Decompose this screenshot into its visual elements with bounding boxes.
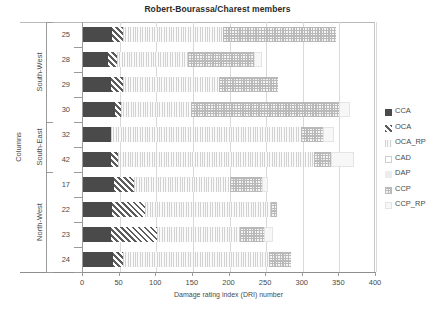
bar-segment-cca[interactable]	[83, 102, 115, 117]
bar-row	[83, 197, 376, 222]
legend-label: CCP_RP	[395, 199, 425, 208]
legend-swatch-cad	[385, 156, 392, 163]
bar-segment-cca[interactable]	[83, 127, 111, 142]
x-axis-title: Damage rating index (DRI) number	[82, 291, 375, 298]
legend-swatch-dap	[385, 171, 392, 178]
legend-swatch-ccp	[385, 187, 392, 194]
bar-segment-cca[interactable]	[83, 177, 114, 192]
legend-swatch-ccp_rp	[385, 202, 392, 209]
category-tick	[74, 147, 82, 148]
bar-segment-ccp_rp[interactable]	[254, 52, 262, 67]
bar-segment-oca[interactable]	[112, 27, 122, 42]
bar-segment-ccp[interactable]	[230, 177, 262, 192]
bar-segment-ccp[interactable]	[188, 52, 254, 67]
group-label: South-East	[35, 128, 44, 165]
legend-swatch-oca	[385, 125, 392, 132]
x-tick-label: 0	[69, 278, 95, 287]
category-label: 25	[48, 30, 70, 39]
bar-row	[83, 222, 376, 247]
bar-segment-oca[interactable]	[113, 252, 123, 267]
bar-segment-oca_rp[interactable]	[157, 227, 240, 242]
category-label: 22	[48, 205, 70, 214]
bar-segment-ccp[interactable]	[269, 252, 291, 267]
category-tick	[74, 122, 82, 123]
gridline	[376, 22, 377, 272]
bar-segment-ccp[interactable]	[191, 102, 339, 117]
bar-segment-oca_rp[interactable]	[121, 102, 191, 117]
legend-label: CAD	[395, 153, 411, 162]
stacked-bar[interactable]	[83, 102, 376, 117]
legend-item[interactable]: CCP	[385, 184, 435, 200]
stacked-bar[interactable]	[83, 227, 376, 242]
bar-row	[83, 147, 376, 172]
chart-root: Robert-Bourassa/Charest members 25282930…	[0, 0, 435, 310]
bar-segment-oca_rp[interactable]	[117, 52, 189, 67]
stacked-bar[interactable]	[83, 177, 376, 192]
bar-row	[83, 122, 376, 147]
bar-segment-oca_rp[interactable]	[111, 127, 301, 142]
stacked-bar[interactable]	[83, 52, 376, 67]
bar-segment-oca_rp[interactable]	[118, 152, 314, 167]
bar-segment-ccp[interactable]	[301, 127, 323, 142]
bar-segment-cca[interactable]	[83, 27, 112, 42]
group-bracket	[46, 22, 47, 122]
bar-segment-oca_rp[interactable]	[134, 177, 229, 192]
stacked-bar[interactable]	[83, 27, 376, 42]
x-tick-label: 300	[289, 278, 315, 287]
x-tick-label: 50	[106, 278, 132, 287]
bar-segment-ccp_rp[interactable]	[262, 177, 269, 192]
bar-segment-oca[interactable]	[112, 202, 144, 217]
bar-segment-ccp[interactable]	[271, 202, 277, 217]
bar-segment-oca[interactable]	[114, 177, 135, 192]
bar-segment-cca[interactable]	[83, 252, 113, 267]
bar-segment-cca[interactable]	[83, 52, 108, 67]
legend-item[interactable]: OCA	[385, 122, 435, 138]
bar-segment-ccp_rp[interactable]	[264, 227, 273, 242]
bar-segment-oca_rp[interactable]	[123, 252, 269, 267]
stacked-bar[interactable]	[83, 202, 376, 217]
legend-item[interactable]: OCA_RP	[385, 137, 435, 153]
bar-segment-oca_rp[interactable]	[123, 77, 219, 92]
bar-segment-cca[interactable]	[83, 227, 111, 242]
legend-swatch-cca	[385, 109, 392, 116]
bar-segment-oca[interactable]	[108, 52, 117, 67]
category-tick	[74, 172, 82, 173]
group-bracket-cap	[46, 22, 53, 23]
bar-segment-ccp[interactable]	[240, 227, 264, 242]
group-bracket-cap	[46, 172, 53, 173]
bar-segment-oca[interactable]	[111, 227, 157, 242]
bar-segment-ccp_rp[interactable]	[339, 102, 349, 117]
x-tick-mark	[192, 272, 193, 276]
stacked-bar[interactable]	[83, 252, 376, 267]
legend-item[interactable]: CCA	[385, 106, 435, 122]
bar-row	[83, 172, 376, 197]
bar-segment-oca[interactable]	[111, 77, 123, 92]
bar-segment-cca[interactable]	[83, 202, 112, 217]
legend-item[interactable]: CAD	[385, 153, 435, 169]
stacked-bar[interactable]	[83, 152, 376, 167]
bar-segment-oca_rp[interactable]	[123, 27, 223, 42]
legend-item[interactable]: DAP	[385, 168, 435, 184]
group-bracket-cap	[46, 122, 53, 123]
category-label: 24	[48, 255, 70, 264]
bar-segment-ccp[interactable]	[223, 27, 336, 42]
category-label: 42	[48, 155, 70, 164]
bar-segment-cca[interactable]	[83, 77, 111, 92]
category-label: 32	[48, 130, 70, 139]
bar-segment-ccp_rp[interactable]	[331, 152, 354, 167]
bar-segment-oca_rp[interactable]	[145, 202, 272, 217]
legend-label: OCA_RP	[395, 137, 426, 146]
y-axis-title: Columns	[14, 132, 23, 162]
bar-segment-oca[interactable]	[111, 152, 118, 167]
bar-segment-cca[interactable]	[83, 152, 111, 167]
bar-row	[83, 97, 376, 122]
bar-segment-ccp[interactable]	[219, 77, 278, 92]
bar-segment-ccp[interactable]	[314, 152, 331, 167]
x-tick-mark	[338, 272, 339, 276]
stacked-bar[interactable]	[83, 127, 376, 142]
bar-segment-ccp_rp[interactable]	[323, 127, 334, 142]
legend-item[interactable]: CCP_RP	[385, 199, 435, 215]
x-tick-label: 250	[252, 278, 278, 287]
x-tick-label: 150	[179, 278, 205, 287]
stacked-bar[interactable]	[83, 77, 376, 92]
